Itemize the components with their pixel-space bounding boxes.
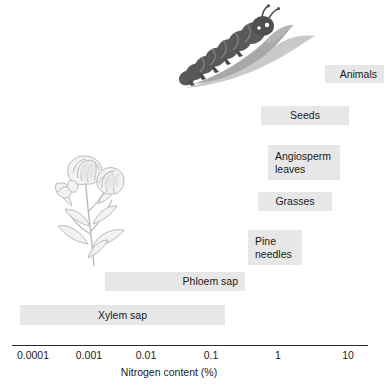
range-bar-angiosperm-leaves: Angiosperm leaves [268,145,340,180]
range-bar-label: Xylem sap [98,309,147,322]
range-bar-animals: Animals [325,65,384,83]
range-bar-grasses: Grasses [258,192,332,211]
nitrogen-content-figure: Animals Seeds Angiosperm leaves Grasses … [0,0,386,389]
range-bar-xylem-sap: Xylem sap [20,305,225,325]
x-axis-tick-0: 0.0001 [17,349,49,361]
x-axis-tick-5: 10 [342,349,354,361]
x-axis-tick-1: 0.001 [76,349,102,361]
range-bar-label: Seeds [290,109,320,122]
range-bar-label: Animals [340,68,377,81]
flowering-plant-illustration [38,148,156,268]
x-axis-title: Nitrogen content (%) [0,366,386,378]
caterpillar-on-leaf-illustration [168,4,320,92]
range-bar-label: Grasses [275,195,314,208]
range-bar-label: Pine needles [255,235,292,260]
range-bar-label: Phloem sap [183,275,238,288]
range-bar-phloem-sap: Phloem sap [105,272,245,291]
x-axis-title-text: Nitrogen content (%) [121,366,217,378]
range-bar-label: Angiosperm leaves [275,150,331,175]
x-axis-tick-2: 0.01 [136,349,156,361]
x-axis-tick-3: 0.1 [204,349,219,361]
x-axis-line [12,345,368,346]
range-bar-seeds: Seeds [261,106,349,125]
x-axis-tick-4: 1 [275,349,281,361]
range-bar-pine-needles: Pine needles [248,230,302,265]
